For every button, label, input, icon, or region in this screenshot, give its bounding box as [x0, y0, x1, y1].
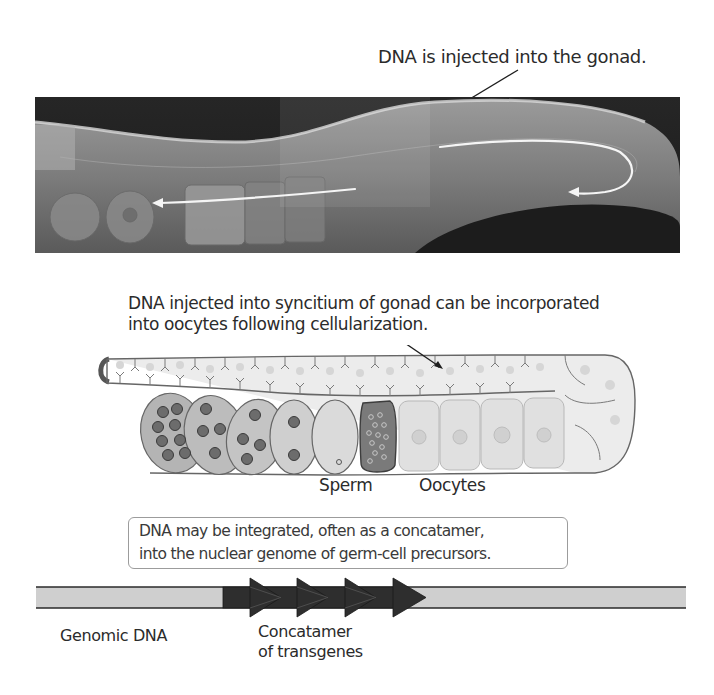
concatamer-label-line1: Concatamer	[258, 622, 363, 642]
integration-note-box: DNA may be integrated, often as a concat…	[128, 517, 568, 569]
integration-note-line1: DNA may be integrated, often as a concat…	[139, 520, 567, 543]
oocytes-label: Oocytes	[419, 475, 485, 496]
genomic-dna-bar	[36, 574, 686, 622]
genomic-dna-label: Genomic DNA	[60, 625, 167, 646]
syncitium-caption-line1: DNA injected into syncitium of gonad can…	[128, 293, 599, 314]
gonad-micrograph	[35, 97, 680, 253]
integration-note-line2: into the nuclear genome of germ-cell pre…	[139, 543, 567, 566]
syncitium-caption: DNA injected into syncitium of gonad can…	[128, 293, 599, 335]
concatamer-label-line2: of transgenes	[258, 642, 363, 662]
sperm-label: Sperm	[319, 475, 372, 496]
gonad-diagram	[95, 345, 655, 480]
syncitium-caption-line2: into oocytes following cellularization.	[128, 314, 599, 335]
transgene-concatamer	[223, 578, 426, 617]
concatamer-label: Concatamer of transgenes	[258, 622, 363, 662]
